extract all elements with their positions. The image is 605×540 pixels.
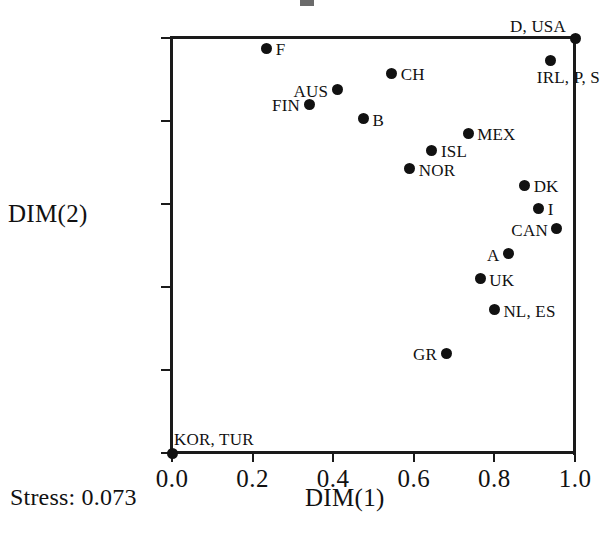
- stress-annotation: Stress: 0.073: [10, 484, 137, 511]
- scatter-plot-figure: 0.00.20.40.60.81.0 0.00.20.40.60.81.0 FD…: [0, 0, 605, 540]
- page-scan-artifact: [300, 0, 314, 6]
- data-point-label: F: [276, 41, 286, 58]
- x-tick-label: 0.8: [459, 466, 529, 491]
- data-point-label: CH: [401, 66, 425, 83]
- x-tick-mark: [493, 453, 495, 462]
- data-point[interactable]: [519, 180, 530, 191]
- x-tick-label: 1.0: [540, 466, 605, 491]
- x-axis-title: DIM(1): [305, 484, 385, 512]
- y-tick-mark: [161, 203, 170, 205]
- data-point-label: ISL: [441, 143, 467, 160]
- data-point[interactable]: [167, 448, 178, 459]
- x-tick-mark: [252, 453, 254, 462]
- data-point[interactable]: [404, 163, 415, 174]
- data-point-label: KOR, TUR: [174, 431, 254, 448]
- data-point[interactable]: [386, 68, 397, 79]
- x-tick-label: 0.2: [218, 466, 288, 491]
- data-point[interactable]: [545, 55, 556, 66]
- data-point-label: A: [500, 247, 512, 264]
- data-point-label: IRL, P, S: [537, 69, 600, 86]
- x-tick-label: 0.0: [137, 466, 207, 491]
- y-tick-mark: [161, 37, 170, 39]
- data-point-label: I: [548, 201, 554, 218]
- data-point-label: CAN: [548, 222, 585, 239]
- y-tick-mark: [161, 286, 170, 288]
- y-tick-mark: [161, 120, 170, 122]
- data-point[interactable]: [358, 113, 369, 124]
- data-point-label: NL, ES: [503, 303, 555, 320]
- x-tick-label: 0.6: [379, 466, 449, 491]
- data-point-label: DK: [534, 178, 559, 195]
- data-point[interactable]: [533, 203, 544, 214]
- data-point-label: NOR: [419, 162, 456, 179]
- y-tick-mark: [161, 369, 170, 371]
- y-axis-title: DIM(2): [8, 200, 88, 228]
- data-point[interactable]: [463, 128, 474, 139]
- x-tick-mark: [332, 453, 334, 462]
- x-tick-mark: [413, 453, 415, 462]
- data-point[interactable]: [475, 273, 486, 284]
- data-point-label: D, USA: [566, 18, 605, 35]
- plot-data-area: FD, USAIRL, P, SCHAUSFINBMEXISLNORDKICAN…: [172, 38, 575, 453]
- data-point[interactable]: [489, 304, 500, 315]
- data-point[interactable]: [261, 43, 272, 54]
- data-point-label: B: [372, 112, 384, 129]
- data-point-label: AUS: [328, 83, 363, 100]
- data-point-label: UK: [489, 272, 514, 289]
- data-point[interactable]: [426, 145, 437, 156]
- data-point-label: FIN: [300, 97, 328, 114]
- data-point-label: GR: [437, 346, 461, 363]
- data-point-label: MEX: [477, 126, 515, 143]
- x-tick-mark: [574, 453, 576, 462]
